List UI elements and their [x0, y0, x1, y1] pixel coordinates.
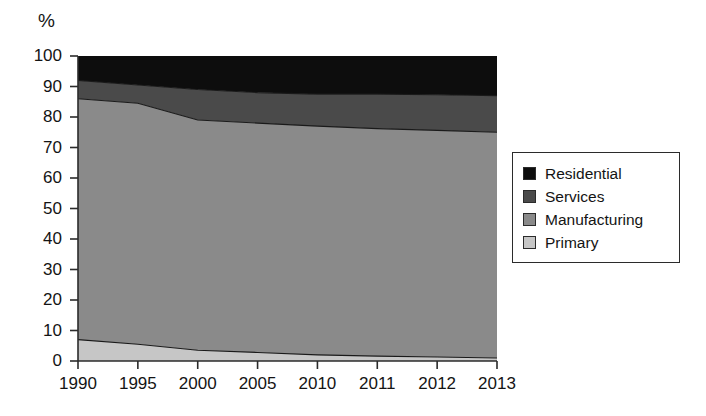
- y-axis-tick-label: 30: [16, 260, 62, 280]
- y-axis-tick-label: 0: [16, 351, 62, 371]
- x-axis-tick-label: 2000: [179, 374, 217, 394]
- y-axis-tick-label: 90: [16, 77, 62, 97]
- x-axis-tick-label: 1990: [59, 374, 97, 394]
- y-axis-tick-label: 100: [16, 46, 62, 66]
- legend-item-label: Residential: [545, 166, 622, 182]
- legend-item-residential: Residential: [523, 162, 679, 185]
- x-axis-tick-label: 2010: [299, 374, 337, 394]
- y-axis-tick-label: 40: [16, 229, 62, 249]
- legend-item-primary: Primary: [523, 231, 679, 254]
- x-axis-tick-label: 2011: [359, 374, 396, 394]
- legend-item-manufacturing: Manufacturing: [523, 208, 679, 231]
- legend-swatch-icon: [523, 190, 536, 203]
- area-band-manufacturing: [78, 99, 497, 358]
- legend-swatch-icon: [523, 213, 536, 226]
- y-axis-tick-label: 20: [16, 290, 62, 310]
- y-axis-tick-label: 50: [16, 199, 62, 219]
- y-axis-tick-label: 10: [16, 321, 62, 341]
- legend-item-label: Manufacturing: [545, 212, 643, 228]
- x-axis-tick-label: 2013: [478, 374, 516, 394]
- chart-legend: ResidentialServicesManufacturingPrimary: [512, 152, 680, 263]
- x-axis-tick-label: 1995: [119, 374, 157, 394]
- x-axis-tick-label: 2005: [239, 374, 277, 394]
- legend-item-label: Primary: [545, 235, 598, 251]
- legend-swatch-icon: [523, 167, 536, 180]
- legend-item-services: Services: [523, 185, 679, 208]
- legend-item-label: Services: [545, 189, 604, 205]
- legend-swatch-icon: [523, 236, 536, 249]
- y-axis-tick-label: 60: [16, 168, 62, 188]
- stacked-area-chart: % 0102030405060708090100 199019952000200…: [0, 0, 706, 416]
- y-axis-tick-label: 70: [16, 138, 62, 158]
- y-axis-tick-label: 80: [16, 107, 62, 127]
- x-axis-tick-label: 2012: [418, 374, 456, 394]
